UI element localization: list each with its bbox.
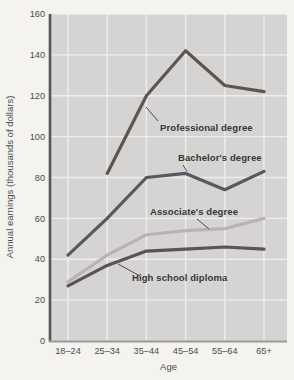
annotation-bachelors-degree: Bachelor's degree — [178, 152, 262, 163]
x-tick-label: 35–44 — [134, 346, 160, 356]
x-tick-label: 18–24 — [55, 346, 81, 356]
y-tick-label: 160 — [30, 9, 45, 19]
annotation-associates-degree: Associate's degree — [150, 206, 238, 217]
y-tick-label: 60 — [35, 214, 45, 224]
y-tick-label: 100 — [30, 132, 45, 142]
x-axis-title: Age — [50, 361, 287, 372]
annotation-professional-degree: Professional degree — [160, 122, 253, 133]
y-axis-title: Annual earnings (thousands of dollars) — [4, 96, 15, 259]
y-tick-label: 80 — [35, 173, 45, 183]
y-tick-label: 0 — [40, 336, 45, 346]
annotation-high-school-diploma: High school diploma — [132, 272, 227, 283]
x-tick-label: 55–64 — [212, 346, 238, 356]
y-tick-label: 140 — [30, 50, 45, 60]
y-tick-label: 40 — [35, 254, 45, 264]
y-tick-label: 120 — [30, 91, 45, 101]
x-tick-label: 45–54 — [173, 346, 199, 356]
x-tick-label: 65+ — [256, 346, 272, 356]
earnings-by-education-chart: 02040608010012014016018–2425–3435–4445–5… — [0, 0, 294, 380]
x-tick-label: 25–34 — [94, 346, 120, 356]
chart-canvas: 02040608010012014016018–2425–3435–4445–5… — [0, 0, 294, 380]
y-tick-label: 20 — [35, 295, 45, 305]
